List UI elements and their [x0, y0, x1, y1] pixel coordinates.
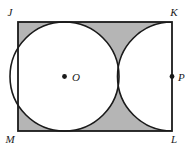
- vertex-label-l: L: [170, 133, 177, 145]
- geometry-canvas: J K L M O P: [0, 0, 191, 151]
- point-p-dot: [170, 74, 175, 79]
- point-label-p: P: [177, 71, 185, 83]
- point-label-o: O: [72, 71, 80, 83]
- geometry-figure: J K L M O P: [0, 0, 191, 151]
- vertex-label-k: K: [169, 6, 178, 18]
- vertex-label-j: J: [8, 6, 14, 18]
- vertex-label-m: M: [4, 133, 15, 145]
- point-o-dot: [62, 74, 67, 79]
- shaded-region: [18, 22, 172, 131]
